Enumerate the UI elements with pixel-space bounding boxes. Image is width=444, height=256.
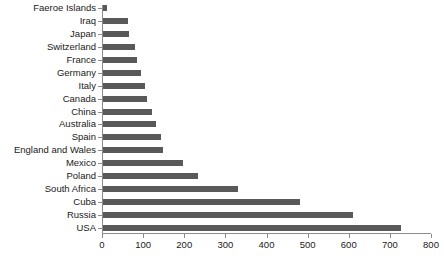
category-label: France <box>0 55 96 65</box>
bar <box>103 18 128 24</box>
bar <box>103 225 401 231</box>
y-axis-tick <box>98 124 102 125</box>
y-axis-tick <box>98 189 102 190</box>
bar <box>103 44 135 50</box>
y-axis-tick <box>98 99 102 100</box>
x-axis-tick <box>102 234 103 238</box>
x-axis-tick-label: 700 <box>375 239 405 250</box>
x-axis-tick <box>225 234 226 238</box>
category-label: Australia <box>0 119 96 129</box>
y-axis-tick <box>98 47 102 48</box>
x-axis-tick-label: 200 <box>169 239 199 250</box>
category-label: Canada <box>0 94 96 104</box>
category-label: China <box>0 107 96 117</box>
category-label: Iraq <box>0 16 96 26</box>
x-axis-tick <box>143 234 144 238</box>
bar <box>103 57 137 63</box>
x-axis-tick <box>349 234 350 238</box>
x-axis-tick-label: 400 <box>252 239 282 250</box>
bar <box>103 109 152 115</box>
x-axis-tick-label: 800 <box>416 239 444 250</box>
bar <box>103 31 129 37</box>
bar <box>103 70 141 76</box>
y-axis-tick <box>98 228 102 229</box>
bar <box>103 199 300 205</box>
x-axis-tick-label: 600 <box>334 239 364 250</box>
category-label: USA <box>0 223 96 233</box>
category-axis-labels: Faeroe IslandsIraqJapanSwitzerlandFrance… <box>0 0 96 240</box>
category-label: Mexico <box>0 158 96 168</box>
category-label: Cuba <box>0 197 96 207</box>
bar <box>103 83 145 89</box>
y-axis-tick <box>98 150 102 151</box>
y-axis-tick <box>98 137 102 138</box>
x-axis-tick <box>308 234 309 238</box>
x-axis-tick <box>390 234 391 238</box>
x-axis-tick <box>267 234 268 238</box>
y-axis-tick <box>98 202 102 203</box>
bar <box>103 160 183 166</box>
category-label: Switzerland <box>0 42 96 52</box>
x-axis-tick <box>184 234 185 238</box>
bar <box>103 134 161 140</box>
y-axis-tick <box>98 21 102 22</box>
y-axis-tick <box>98 176 102 177</box>
bar <box>103 5 107 11</box>
y-axis-tick <box>98 112 102 113</box>
bar <box>103 186 238 192</box>
x-axis-tick-label: 500 <box>293 239 323 250</box>
y-axis-tick <box>98 86 102 87</box>
plot-area: 0100200300400500600700800 <box>102 0 439 256</box>
y-axis-tick <box>98 163 102 164</box>
x-axis-tick <box>431 234 432 238</box>
bar <box>103 121 156 127</box>
y-axis-tick <box>98 60 102 61</box>
bar <box>103 96 147 102</box>
x-axis-tick-label: 0 <box>87 239 117 250</box>
bar <box>103 173 198 179</box>
bar <box>103 212 353 218</box>
category-label: Faeroe Islands <box>0 3 96 13</box>
category-label: Italy <box>0 81 96 91</box>
category-label: Japan <box>0 29 96 39</box>
category-label: Russia <box>0 210 96 220</box>
y-axis-tick <box>98 73 102 74</box>
y-axis-tick <box>98 34 102 35</box>
category-label: South Africa <box>0 184 96 194</box>
category-label: Germany <box>0 68 96 78</box>
category-label: Poland <box>0 171 96 181</box>
y-axis-tick <box>98 8 102 9</box>
x-axis-tick-label: 300 <box>210 239 240 250</box>
y-axis-tick <box>98 215 102 216</box>
category-label: Spain <box>0 132 96 142</box>
category-label: England and Wales <box>0 145 96 155</box>
x-axis-tick-label: 100 <box>128 239 158 250</box>
bar <box>103 147 163 153</box>
